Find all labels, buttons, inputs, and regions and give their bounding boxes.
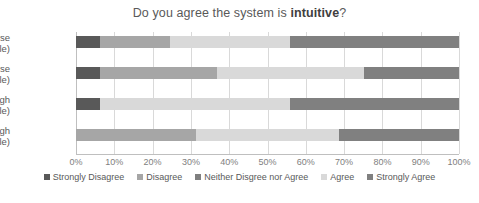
bar-segment [217,67,364,79]
bar-segment [100,36,170,48]
legend-label: Neither Disgree nor Agree [204,172,308,182]
chart-title-emphasis: intuitive [290,6,339,20]
bar-segment [76,36,100,48]
bar-segment [364,67,459,79]
bar-segment [76,129,196,141]
bar-segment [290,36,459,48]
bar-row [76,98,459,110]
bar-segment [76,98,100,110]
category-label-line2: (Visible) [0,106,10,117]
chart-title: Do you agree the system is intuitive? [0,6,479,20]
legend-label: Agree [330,172,354,182]
legend-item[interactable]: Disagree [137,172,182,182]
legend-swatch-icon [321,174,327,180]
category-label-line2: (Invisible) [0,75,10,86]
legend-label: Strongly Agree [376,172,435,182]
x-tick-label: 0% [56,157,96,167]
category-label: SeeThrough(Invisible) [0,126,10,147]
chart-container: Do you agree the system is intuitive? Vi… [0,0,479,203]
bar-segment [339,129,459,141]
bar-row [76,67,459,79]
x-tick-label: 10% [94,157,134,167]
legend-swatch-icon [44,174,50,180]
legend-label: Strongly Disagree [53,172,125,182]
bar-segment [100,98,290,110]
legend-item[interactable]: Agree [321,172,354,182]
bar-segment [196,129,339,141]
category-label: SeeThrough(Visible) [0,95,10,116]
legend-swatch-icon [137,174,143,180]
category-label: VirtualHorse(Invisible) [0,64,10,85]
x-tick-label: 60% [286,157,326,167]
x-tick-label: 80% [362,157,402,167]
x-tick-label: 70% [324,157,364,167]
bar-row [76,36,459,48]
bar-segment [76,67,100,79]
x-axis-line [76,154,459,155]
bar-segment [100,67,217,79]
bar-row [76,129,459,141]
legend-item[interactable]: Strongly Disagree [44,172,125,182]
bar-segment [170,36,290,48]
chart-title-suffix: ? [339,6,346,20]
legend-swatch-icon [367,174,373,180]
category-label-line1: SeeThrough [0,125,10,136]
chart-title-prefix: Do you agree the system is [133,6,291,20]
category-label-line1: SeeThrough [0,94,10,105]
x-tick-label: 40% [209,157,249,167]
x-tick-label: 90% [401,157,441,167]
category-label-line1: VirtualHorse [0,63,10,74]
category-label-line2: (Invisible) [0,137,10,148]
x-tick-label: 100% [439,157,479,167]
category-label-line2: (Visible) [0,44,10,55]
legend-item[interactable]: Neither Disgree nor Agree [195,172,308,182]
category-label-line1: VirtualHorse [0,32,10,43]
x-tick-label: 30% [171,157,211,167]
plot-area [76,32,459,154]
x-tick-label: 20% [133,157,173,167]
x-tick-label: 50% [248,157,288,167]
gridline-100% [459,32,460,154]
legend-item[interactable]: Strongly Agree [367,172,435,182]
category-label: VirtualHorse(Visible) [0,33,10,54]
bar-segment [290,98,459,110]
chart-legend: Strongly DisagreeDisagreeNeither Disgree… [0,172,479,182]
legend-label: Disagree [146,172,182,182]
legend-swatch-icon [195,174,201,180]
